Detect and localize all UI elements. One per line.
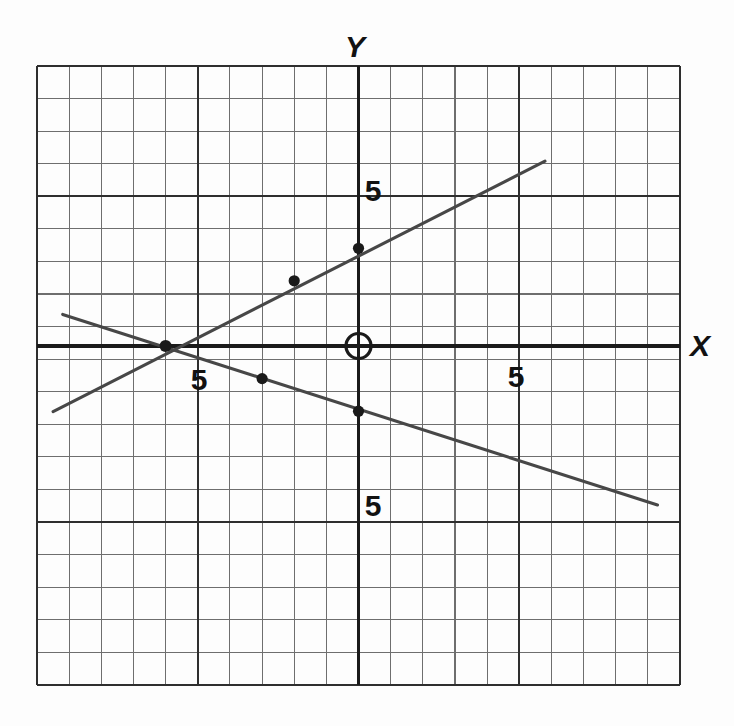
tick-label-y-positive-5: 5 — [365, 174, 382, 207]
tick-label-y-negative-5: 5 — [365, 489, 382, 522]
figure-background — [0, 0, 734, 726]
y-axis-label: Y — [345, 30, 368, 63]
point-rising-a — [289, 275, 300, 286]
tick-label-x-positive-5: 5 — [508, 360, 525, 393]
x-axis-label: X — [688, 329, 712, 362]
point-falling-a — [257, 373, 268, 384]
graph-canvas: Y X 5 5 5 5 — [0, 0, 734, 726]
point-falling-b — [353, 406, 364, 417]
coordinate-plane-figure: Y X 5 5 5 5 — [0, 0, 734, 726]
point-intersection — [160, 340, 172, 352]
point-rising-b — [353, 243, 364, 254]
tick-label-x-negative-5: 5 — [191, 363, 208, 396]
